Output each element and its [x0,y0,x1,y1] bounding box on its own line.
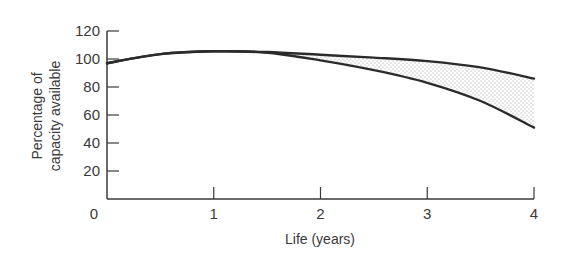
shaded-band [107,51,534,127]
x-tick-label: 1 [210,205,218,222]
x-tick-label: 3 [423,205,431,222]
y-axis-title: Percentage of capacity available [29,61,63,172]
chart-canvas: Percentage of capacity available 2040608… [0,0,567,257]
x-tick-label: 4 [530,205,538,222]
origin-label: 0 [90,205,98,222]
x-axis-title: Life (years) [285,231,355,247]
x-axis-ticks: 1234 [210,187,539,222]
x-tick-label: 2 [316,205,324,222]
y-tick-label: 120 [75,22,100,39]
y-tick-label: 40 [83,134,100,151]
y-tick-label: 80 [83,78,100,95]
y-tick-label: 20 [83,162,100,179]
y-tick-label: 100 [75,50,100,67]
y-axis-title-line1: Percentage of [29,72,45,159]
y-axis-title-line2: capacity available [47,61,63,172]
y-tick-label: 60 [83,106,100,123]
y-axis-ticks: 204060801001200 [75,22,119,222]
